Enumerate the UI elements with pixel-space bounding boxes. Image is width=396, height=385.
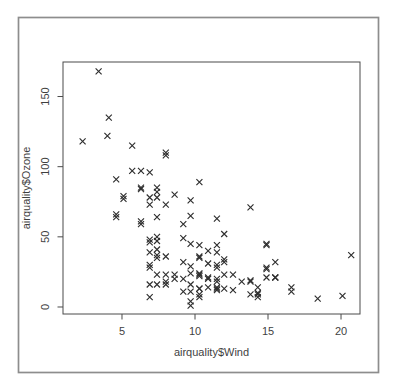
y-tick-label: 150: [39, 87, 51, 105]
x-tick-label: 5: [119, 325, 125, 337]
x-axis-label: airquality$Wind: [174, 346, 249, 358]
y-tick-label: 100: [39, 157, 51, 175]
plot-box: [63, 62, 360, 314]
y-tick-label: 0: [39, 304, 51, 310]
x-tick-label: 10: [189, 325, 201, 337]
x-tick-label: 15: [262, 325, 274, 337]
scatter-plot: 5101520 050100150 airquality$Wind airqua…: [0, 0, 396, 385]
y-tick-label: 50: [39, 231, 51, 243]
x-tick-label: 20: [335, 325, 347, 337]
y-axis-label: airquality$Ozone: [20, 147, 32, 230]
screenshot-root: 5101520 050100150 airquality$Wind airqua…: [0, 0, 396, 385]
